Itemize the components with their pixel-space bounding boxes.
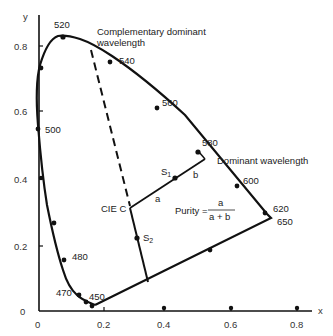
x-tick-0.6: 0.6 <box>224 319 237 330</box>
y-tick-0: 0 <box>20 306 25 317</box>
wavelength-540: 540 <box>119 55 135 66</box>
purity-label: Purity = <box>175 205 208 216</box>
y-tick-0.4: 0.4 <box>14 174 27 185</box>
wavelength-500: 500 <box>45 124 61 135</box>
complementary-label-line1: Complementary dominant <box>97 26 206 37</box>
wavelength-650: 650 <box>277 216 293 227</box>
purity-denominator: a + b <box>209 211 230 222</box>
y-tick-0.6: 0.6 <box>14 106 27 117</box>
spectral-locus <box>37 36 271 305</box>
dominant-label: Dominant wavelength <box>217 155 308 166</box>
wavelength-580: 580 <box>202 137 218 148</box>
white-to-s2-line <box>130 208 148 282</box>
s2-point <box>134 235 139 240</box>
s1-label: S1 <box>161 166 171 178</box>
white-to-s1-line <box>130 159 205 208</box>
wavelength-620: 620 <box>273 203 289 214</box>
s2-label: S2 <box>143 232 153 244</box>
y-tick-0.8: 0.8 <box>14 41 27 52</box>
complementary-label-line2: wavelength <box>96 37 145 48</box>
complementary-line <box>91 50 130 206</box>
wavelength-480: 480 <box>72 251 88 262</box>
segment-a-label: a <box>155 193 161 204</box>
x-tick-0.2: 0.2 <box>97 319 110 330</box>
wavelength-450: 450 <box>89 291 105 302</box>
x-tick-0.4: 0.4 <box>157 319 170 330</box>
wavelength-560: 560 <box>162 97 178 108</box>
purity-numerator: a <box>218 197 224 208</box>
x-tick-0.8: 0.8 <box>290 319 303 330</box>
chromaticity-diagram: 0.8 0.6 0.4 0.2 0 0 0.2 0.4 0.6 0.8 y x … <box>0 0 333 336</box>
white-point-label: CIE C <box>101 203 126 214</box>
y-axis-label: y <box>23 11 28 22</box>
y-tick-0.2: 0.2 <box>14 241 27 252</box>
dominant-pointer <box>199 152 205 159</box>
x-tick-0: 0 <box>35 319 40 330</box>
x-axis-label: x <box>318 305 323 316</box>
wavelength-600: 600 <box>243 175 259 186</box>
s1-point <box>172 175 177 180</box>
segment-b-label: b <box>193 169 198 180</box>
wavelength-520: 520 <box>54 19 70 30</box>
wavelength-470: 470 <box>56 287 72 298</box>
